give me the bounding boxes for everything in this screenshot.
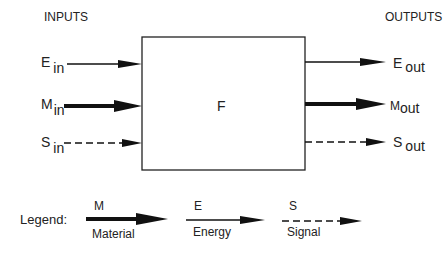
legend-material-symbol: M [94,199,104,213]
legend-material-name: Material [92,227,135,241]
input-symbol: E [41,54,50,70]
energy-output-arrow [305,58,386,66]
legend-signal-symbol: S [289,199,297,213]
output-label-material: Mout [390,97,419,113]
legend-signal-name: Signal [287,225,320,239]
legend-energy-symbol: E [194,199,202,213]
inputs-header: INPUTS [44,10,88,24]
output-subscript: out [405,59,424,75]
input-subscript: in [54,102,65,118]
output-symbol: M [390,99,400,113]
legend-energy-arrow [186,216,265,224]
output-symbol: E [393,55,402,71]
input-symbol: S [41,134,50,150]
input-label-material: Min [41,96,65,112]
output-subscript: out [405,138,424,154]
material-input-arrow [64,100,142,112]
signal-input-arrow [64,139,142,147]
material-output-arrow [305,98,386,110]
output-label-energy: Eout [393,55,425,71]
output-subscript: out [400,100,419,116]
legend-signal-arrow [282,217,362,225]
legend-energy-name: Energy [193,225,231,239]
legend-material-arrow [86,213,168,225]
output-label-signal: Sout [393,134,425,150]
input-subscript: in [53,60,64,76]
outputs-header: OUTPUTS [385,10,442,24]
input-subscript: in [53,140,64,156]
energy-input-arrow [67,60,142,68]
input-symbol: M [41,96,53,112]
signal-output-arrow [305,138,386,146]
input-label-energy: Ein [41,54,64,70]
input-label-signal: Sin [41,134,64,150]
output-symbol: S [393,134,402,150]
legend-title: Legend: [20,212,67,227]
function-label: F [217,98,226,114]
